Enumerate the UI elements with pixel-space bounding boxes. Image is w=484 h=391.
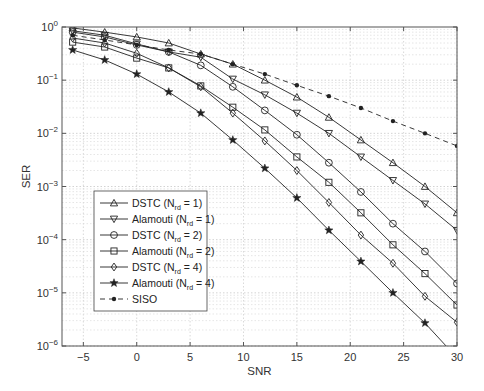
y-tick-label: 10−3 [37, 179, 59, 193]
x-axis-label: SNR [247, 365, 271, 377]
x-tick-label: 25 [397, 351, 409, 363]
x-tick-label: 5 [187, 351, 193, 363]
x-tick-label: 0 [134, 351, 140, 363]
y-tick-label: 10−6 [37, 338, 59, 352]
y-tick-label: 10−1 [37, 72, 59, 86]
x-tick-label: 20 [344, 351, 356, 363]
x-tick-label: 15 [291, 351, 303, 363]
legend-label: Alamouti (Nrd = 4) [132, 277, 214, 291]
y-tick-label: 10−4 [37, 232, 59, 246]
x-tick-label: −5 [77, 351, 90, 363]
legend-label: Alamouti (Nrd = 1) [132, 213, 214, 227]
legend-label: SISO [132, 293, 157, 305]
legend-label: DSTC (Nrd = 2) [132, 229, 202, 243]
y-tick-label: 10−5 [37, 285, 59, 299]
y-tick-label: 10−2 [37, 125, 59, 139]
y-axis-label: SER [20, 165, 32, 189]
y-tick-label: 100 [41, 19, 58, 33]
ser-vs-snr-chart: −505101520253010010−110−210−310−410−510−… [0, 0, 484, 391]
x-tick-label: 30 [451, 351, 463, 363]
legend: DSTC (Nrd = 1)Alamouti (Nrd = 1)DSTC (Nr… [94, 191, 214, 311]
x-tick-label: 10 [237, 351, 249, 363]
legend-label: Alamouti (Nrd = 2) [132, 245, 214, 259]
legend-label: DSTC (Nrd = 4) [132, 261, 202, 275]
legend-label: DSTC (Nrd = 1) [132, 197, 202, 211]
